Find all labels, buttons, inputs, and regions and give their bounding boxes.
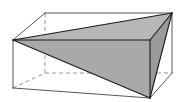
geometry-figure	[0, 0, 190, 102]
figure-canvas	[0, 0, 190, 102]
